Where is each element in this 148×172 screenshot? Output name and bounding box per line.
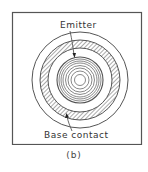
figure-caption: (b) bbox=[0, 150, 148, 160]
emitter-label: Emitter bbox=[60, 20, 97, 30]
device-cross-section-diagram: Emitter Base contact bbox=[0, 0, 148, 145]
base-contact-label: Base contact bbox=[44, 130, 108, 140]
